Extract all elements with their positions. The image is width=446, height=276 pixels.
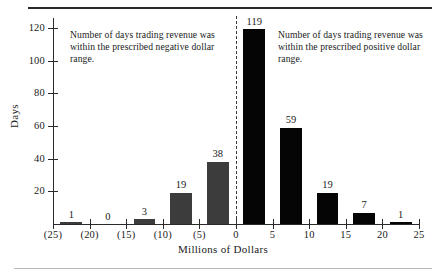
histogram-bar: 7 [353,213,375,224]
x-tick [419,219,420,229]
x-tick-label: 15 [340,230,351,241]
y-tick [48,93,58,94]
bar-value-label: 119 [247,17,262,28]
y-tick-label: 80 [34,88,45,99]
x-tick-label: 5 [270,230,275,241]
x-tick [126,219,127,229]
bar-value-label: 59 [286,115,297,126]
top-rule [28,7,432,9]
y-tick [48,61,58,62]
bar-value-label: 19 [322,180,333,191]
x-tick-label: 0 [233,230,238,241]
x-tick [163,219,164,229]
y-axis-line [53,18,54,224]
bar-value-label: 38 [212,149,223,160]
bar-value-label: 7 [361,200,366,211]
y-tick-label: 40 [34,153,45,164]
x-tick [53,219,54,229]
histogram-bar: 19 [170,193,192,224]
y-tick [48,191,58,192]
y-tick-label: 100 [29,55,45,66]
y-axis-title: Days [8,104,20,128]
x-tick-label: (5) [193,230,206,241]
y-tick-label: 60 [34,121,45,132]
bar-value-label: 0 [105,212,110,223]
histogram-bar: 38 [207,162,229,224]
x-tick-label: (25) [44,230,62,241]
bottom-rule [14,268,432,269]
x-tick [382,219,383,229]
y-tick-label: 20 [34,186,45,197]
y-tick-label: 120 [29,23,45,34]
histogram-bar: 3 [134,219,156,224]
x-tick-label: (15) [117,230,135,241]
x-tick-label: (10) [154,230,172,241]
annotation-positive-range: Number of days trading revenue was withi… [278,29,436,66]
histogram-bar: 59 [280,128,302,224]
histogram-bar: 1 [390,222,412,224]
histogram-figure: Days Millions of Dollars 20406080100120 … [0,0,446,276]
y-tick [48,126,58,127]
histogram-bar: 119 [243,29,265,224]
bar-value-label: 1 [398,210,403,221]
y-tick [48,159,58,160]
x-tick [199,219,200,229]
x-tick [90,219,91,229]
bar-value-label: 3 [142,207,147,218]
x-tick-label: 20 [377,230,388,241]
bar-value-label: 19 [176,180,187,191]
x-tick-label: 10 [304,230,315,241]
zero-divider-line [236,16,237,224]
histogram-bar: 1 [60,222,82,224]
x-tick-label: (20) [80,230,98,241]
x-axis-title: Millions of Dollars [0,243,446,255]
x-tick [309,219,310,229]
x-tick [346,219,347,229]
x-tick-label: 25 [414,230,425,241]
y-tick [48,28,58,29]
x-tick [273,219,274,229]
annotation-negative-range: Number of days trading revenue was withi… [70,29,222,66]
histogram-bar: 19 [317,193,339,224]
bar-value-label: 1 [69,210,74,221]
